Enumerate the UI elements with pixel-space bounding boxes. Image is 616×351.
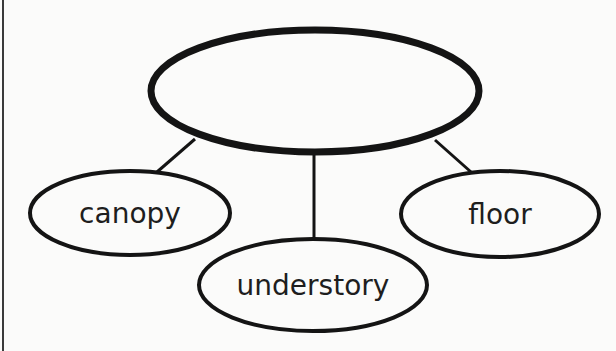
node-understory: understory (199, 239, 427, 331)
central-node (151, 30, 479, 152)
diagram-canvas: canopy understory floor (0, 0, 616, 351)
edge-central-to-floor (435, 140, 471, 172)
node-canopy-label: canopy (79, 197, 181, 230)
node-floor: floor (401, 171, 599, 257)
node-understory-label: understory (237, 269, 390, 302)
concept-web-diagram: canopy understory floor (0, 0, 616, 351)
central-node-ellipse (151, 30, 479, 152)
node-floor-label: floor (468, 198, 532, 231)
edge-central-to-canopy (157, 139, 195, 172)
node-canopy: canopy (30, 171, 230, 255)
